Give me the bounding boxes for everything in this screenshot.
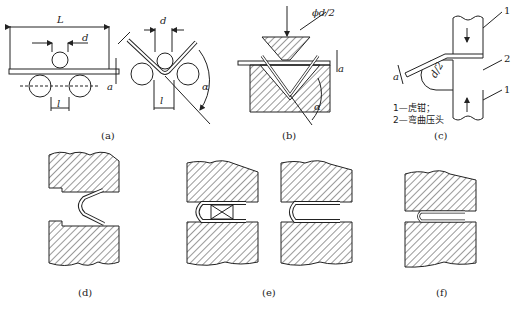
panel-d (49, 152, 119, 265)
dim-d: d (82, 32, 88, 43)
callout-1-bottom: 1 (504, 84, 510, 95)
callout-2: 2 (504, 53, 510, 64)
caption-b: (b) (282, 130, 296, 141)
caption-c: (c) (434, 130, 448, 141)
dim-l-bent: l (160, 95, 163, 106)
callout-1-top: 1 (504, 5, 510, 16)
panel-e-right (281, 161, 352, 266)
dim-l: l (57, 98, 60, 109)
panel-b (238, 6, 337, 125)
legend-vise: 1—虎钳； (393, 102, 435, 113)
panel-e-left (187, 161, 258, 266)
caption-d: (d) (78, 287, 92, 298)
panel-f (405, 171, 476, 267)
dim-diameter: ϕd/2 (312, 7, 335, 18)
bend-test-diagram: L d a l d l α (a) ϕd/2 a α (b) (0, 0, 515, 309)
panel-a-straight (9, 26, 119, 111)
legend-bending-head: 2—弯曲压头 (393, 114, 444, 125)
dim-d-bent: d (160, 15, 166, 26)
dim-a-c: a (393, 71, 399, 82)
dim-a: a (107, 81, 113, 92)
dim-alpha-b: α (314, 101, 321, 112)
panel-a-bent (118, 28, 210, 124)
dim-a-b: a (338, 63, 344, 74)
caption-f: (f) (436, 287, 448, 298)
caption-e: (e) (262, 287, 276, 298)
dim-L: L (56, 14, 64, 25)
dim-alpha: α (202, 81, 209, 92)
caption-a: (a) (101, 130, 115, 141)
